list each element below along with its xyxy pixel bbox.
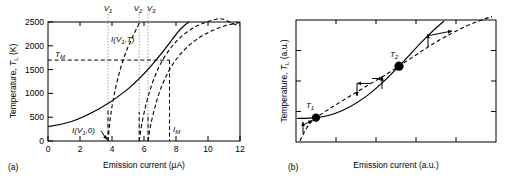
panel-b-cobweb-arrows: [303, 31, 452, 133]
label-im: IM: [173, 125, 180, 135]
fixed-point-t1: [312, 113, 320, 121]
label-v1: V1: [104, 4, 113, 14]
panel-b: T1 T2 Emission current (a.u.) Temperatur…: [279, 17, 496, 172]
panel-a-x-ticks: [48, 22, 240, 141]
fixed-point-t2: [394, 62, 403, 71]
panel-a-ylabel: Temperature, TL (K): [8, 43, 19, 118]
panel-a-xlabel: Emission current (µA): [103, 160, 185, 170]
panel-b-axes: [296, 20, 496, 142]
panel-b-ticks: [296, 20, 496, 142]
x-tick-12: 12: [235, 144, 245, 154]
figure-container: 0 500 1000 1500 2000 2500 0 2 4: [0, 0, 508, 180]
label-t1: T1: [306, 101, 314, 111]
panel-a-voltage-labels: V1 V2 V3: [104, 4, 156, 14]
annot-iv0-arrow: [101, 131, 107, 140]
panel-b-curve-solid: [297, 21, 444, 119]
y-tick-500: 500: [30, 112, 44, 122]
x-tick-4: 4: [110, 144, 115, 154]
panel-a-axes: [48, 22, 240, 141]
panel-a-im-guide: IM: [170, 60, 181, 141]
y-tick-2500: 2500: [25, 17, 44, 27]
panel-b-ylabel: Temperature, TL (a.u.): [279, 39, 290, 122]
two-panel-figure: 0 500 1000 1500 2000 2500 0 2 4: [0, 0, 508, 180]
curve-emission-v3: [148, 23, 240, 141]
panel-b-label: (b): [288, 162, 299, 172]
label-t2: T2: [390, 50, 399, 60]
y-tick-2000: 2000: [25, 41, 44, 51]
x-tick-8: 8: [174, 144, 179, 154]
x-tick-2: 2: [78, 144, 83, 154]
panel-b-curve-dashed: [300, 17, 492, 141]
x-tick-10: 10: [203, 144, 213, 154]
curve-emission-v2: [139, 19, 240, 141]
y-tick-1500: 1500: [25, 65, 44, 75]
panel-a-voltage-guides: [108, 14, 148, 141]
y-tick-1000: 1000: [25, 88, 44, 98]
panel-a: 0 500 1000 1500 2000 2500 0 2 4: [8, 4, 245, 172]
y-tick-0: 0: [39, 136, 44, 146]
panel-a-x-ticklabels: 0 2 4 6 8 10 12: [46, 144, 245, 154]
x-tick-6: 6: [142, 144, 147, 154]
annot-iv0: I(V1,0): [72, 126, 95, 136]
panel-b-xlabel: Emission current (a.u.): [353, 160, 439, 170]
panel-a-tm-guide: TM: [48, 50, 170, 60]
annot-ivt: I(V1,T): [111, 35, 135, 45]
label-v2: V2: [134, 4, 143, 14]
panel-a-y-ticks: [48, 22, 53, 141]
x-tick-0: 0: [46, 144, 51, 154]
panel-a-label: (a): [8, 162, 19, 172]
label-tm: TM: [55, 50, 65, 60]
label-v3: V3: [147, 4, 156, 14]
panel-a-y-ticklabels: 0 500 1000 1500 2000 2500: [25, 17, 44, 146]
